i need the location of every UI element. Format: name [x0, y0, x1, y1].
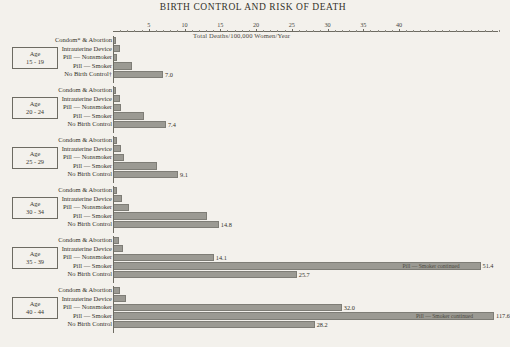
- axis-tick-minor: [478, 30, 479, 32]
- axis-tick-minor: [449, 30, 450, 32]
- age-group: Age25 - 29Condom & AbortionIntrauterine …: [0, 136, 506, 179]
- bar[interactable]: [113, 154, 124, 161]
- bar-row[interactable]: Pill — SmokerPill — Smoker continued117.…: [0, 312, 506, 321]
- age-group: Age20 - 24Condom & AbortionIntrauterine …: [0, 86, 506, 129]
- bar-row-list: Condom & AbortionIntrauterine DevicePill…: [0, 286, 506, 329]
- bar-row-label: Pill — Smoker: [73, 112, 112, 121]
- bar-row[interactable]: Intrauterine Device: [0, 295, 506, 304]
- axis-tick-label: 30: [324, 21, 330, 28]
- axis-tick-label: 40: [396, 21, 402, 28]
- bar[interactable]: [113, 321, 315, 328]
- bar-row[interactable]: Pill — Nonsmoker: [0, 203, 506, 212]
- bar-row[interactable]: Pill — SmokerPill — Smoker continued51.4: [0, 262, 506, 271]
- chart-title: BIRTH CONTROL AND RISK OF DEATH: [0, 2, 506, 12]
- bar[interactable]: [113, 295, 126, 302]
- bar[interactable]: [113, 195, 122, 202]
- bar[interactable]: [113, 104, 121, 111]
- bar-row-label: Intrauterine Device: [62, 45, 112, 54]
- bar-row-list: Condom & AbortionIntrauterine DevicePill…: [0, 236, 506, 279]
- axis-tick-minor: [127, 30, 128, 32]
- bar-row[interactable]: Condom & Abortion: [0, 186, 506, 195]
- bar-row[interactable]: Pill — Nonsmoker: [0, 103, 506, 112]
- axis-tick-label: 20: [253, 21, 259, 28]
- group-baseline: [113, 286, 114, 333]
- bar-value-label: 9.1: [180, 171, 188, 179]
- bar-continued-note: Pill — Smoker continued: [403, 263, 460, 270]
- bar-value-label: 7.4: [168, 121, 176, 129]
- bar-row[interactable]: No Birth Control7.4: [0, 120, 506, 129]
- bar-row[interactable]: Pill — Smoker: [0, 162, 506, 171]
- bar[interactable]: [113, 121, 166, 128]
- group-baseline: [113, 186, 114, 233]
- bar-row-label: No Birth Control: [68, 270, 112, 279]
- axis-tick-minor: [485, 30, 486, 32]
- bar-row-label: No Birth Control: [68, 120, 112, 129]
- bar-continued-note: Pill — Smoker continued: [416, 313, 473, 320]
- bar[interactable]: [113, 145, 121, 152]
- bar-row[interactable]: No Birth Control28.2: [0, 320, 506, 329]
- axis-tick-minor: [420, 30, 421, 32]
- bar[interactable]: [113, 271, 297, 278]
- axis-tick-minor: [306, 30, 307, 32]
- axis-tick-minor: [392, 30, 393, 32]
- bar[interactable]: [113, 254, 214, 261]
- bar-row[interactable]: Intrauterine Device: [0, 145, 506, 154]
- age-group: Age40 - 44Condom & AbortionIntrauterine …: [0, 286, 506, 329]
- axis-tick-minor: [492, 30, 493, 32]
- bar[interactable]: [113, 112, 144, 119]
- bar-row[interactable]: No Birth Control9.1: [0, 170, 506, 179]
- bar-row[interactable]: Pill — Smoker: [0, 62, 506, 71]
- axis-tick-minor: [456, 30, 457, 32]
- bar[interactable]: [113, 212, 207, 219]
- axis-tick-minor: [313, 30, 314, 32]
- bar-row[interactable]: Intrauterine Device: [0, 195, 506, 204]
- bar-row-label: Pill — Smoker: [73, 262, 112, 271]
- bar-row[interactable]: Condom* & Abortion: [0, 36, 506, 45]
- bar-row[interactable]: No Birth Control25.7: [0, 270, 506, 279]
- bar-row-label: No Birth Control: [68, 170, 112, 179]
- bar-row[interactable]: Condom & Abortion: [0, 136, 506, 145]
- bar-value-label: 51.4: [483, 262, 494, 270]
- bar[interactable]: [113, 304, 342, 311]
- group-baseline: [113, 136, 114, 183]
- bar[interactable]: [113, 71, 163, 78]
- axis-tick-major: [363, 29, 364, 32]
- axis-tick-minor: [378, 30, 379, 32]
- axis-tick-major: [149, 29, 150, 32]
- bar[interactable]: [113, 162, 157, 169]
- bar-row[interactable]: Pill — Smoker: [0, 112, 506, 121]
- bar-row[interactable]: Condom & Abortion: [0, 86, 506, 95]
- bar[interactable]: [113, 45, 120, 52]
- bar-row[interactable]: Pill — Nonsmoker14.1: [0, 253, 506, 262]
- bar-row[interactable]: Intrauterine Device: [0, 45, 506, 54]
- axis-tick-minor: [435, 30, 436, 32]
- bar-row[interactable]: Pill — Nonsmoker: [0, 153, 506, 162]
- group-baseline: [113, 236, 114, 283]
- bar-row[interactable]: No Birth Control14.8: [0, 220, 506, 229]
- bar-row[interactable]: No Birth Control†7.0: [0, 70, 506, 79]
- bar-row-label: Pill — Nonsmoker: [63, 253, 112, 262]
- axis-tick-minor: [406, 30, 407, 32]
- bar-row[interactable]: Pill — Smoker: [0, 212, 506, 221]
- bar[interactable]: [113, 287, 120, 294]
- bar-row[interactable]: Intrauterine Device: [0, 95, 506, 104]
- bar-row[interactable]: Intrauterine Device: [0, 245, 506, 254]
- bar[interactable]: [113, 221, 219, 228]
- bar[interactable]: [113, 62, 132, 69]
- bar-row[interactable]: Pill — Nonsmoker: [0, 53, 506, 62]
- bar-row-label: Pill — Nonsmoker: [63, 103, 112, 112]
- bar[interactable]: [113, 171, 178, 178]
- axis-tick-major: [292, 29, 293, 32]
- bar[interactable]: [113, 245, 123, 252]
- axis-tick-major: [328, 29, 329, 32]
- bar-row[interactable]: Condom & Abortion: [0, 236, 506, 245]
- bar[interactable]: [113, 95, 120, 102]
- bar-row[interactable]: Pill — Nonsmoker32.0: [0, 303, 506, 312]
- axis-tick-minor: [320, 30, 321, 32]
- bar-row[interactable]: Condom & Abortion: [0, 286, 506, 295]
- bar-row-label: Condom & Abortion: [58, 136, 112, 145]
- bar-row-label: Pill — Nonsmoker: [63, 203, 112, 212]
- bar-row-label: Condom & Abortion: [58, 186, 112, 195]
- bar[interactable]: [113, 204, 129, 211]
